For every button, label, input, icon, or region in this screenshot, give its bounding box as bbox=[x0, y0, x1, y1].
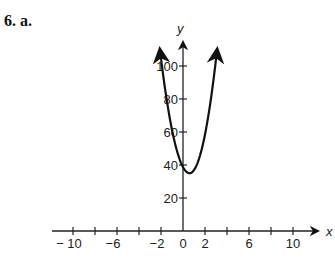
x-tick-labels: − 10−6−202610 bbox=[56, 236, 300, 251]
x-tick-label: 10 bbox=[286, 236, 300, 251]
x-tick-label: − 10 bbox=[56, 236, 82, 251]
x-tick-label: 2 bbox=[201, 236, 208, 251]
y-tick-label: 100 bbox=[156, 59, 178, 74]
x-tick-label: −2 bbox=[150, 236, 165, 251]
y-axis-label: y bbox=[176, 21, 185, 36]
x-axis-label: x bbox=[325, 224, 333, 239]
y-tick-labels: 20406080100 bbox=[156, 59, 178, 206]
x-tick-label: −6 bbox=[106, 236, 121, 251]
y-tick-label: 40 bbox=[164, 158, 178, 173]
parabola-chart: x y − 10−6−202610 20406080100 bbox=[0, 0, 335, 275]
x-tick-label: 0 bbox=[179, 236, 186, 251]
y-tick-label: 20 bbox=[164, 191, 178, 206]
x-tick-label: 6 bbox=[245, 236, 252, 251]
